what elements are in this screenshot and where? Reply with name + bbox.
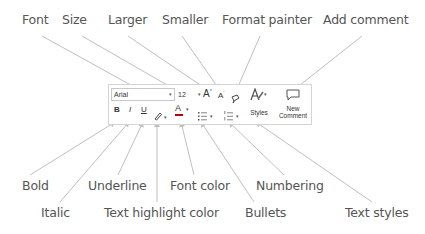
- label-numbering: Numbering: [256, 178, 324, 193]
- font-size-dropdown[interactable]: 12 ▾: [176, 88, 202, 101]
- styles-label: Styles: [247, 109, 271, 116]
- styles-icon: ▾: [250, 88, 268, 102]
- font-name-dropdown[interactable]: Arial ▾: [111, 88, 175, 101]
- chevron-down-icon: ▾: [198, 88, 201, 101]
- font-color-bar: [175, 114, 183, 116]
- italic-button[interactable]: I: [129, 106, 131, 114]
- label-font: Font: [22, 12, 48, 27]
- label-larger: Larger: [108, 12, 147, 27]
- format-painter-icon: [231, 94, 241, 104]
- highlight-color-button[interactable]: ▾: [153, 106, 169, 125]
- new-comment-label-line2: Comment: [275, 112, 311, 119]
- svg-text:▾: ▾: [164, 114, 167, 120]
- bold-icon: B: [114, 105, 120, 114]
- styles-button[interactable]: ▾ Styles: [247, 88, 271, 124]
- svg-text:▾: ▾: [236, 113, 239, 119]
- numbering-button[interactable]: ▾: [224, 106, 242, 125]
- comment-icon: [286, 89, 300, 101]
- numbering-icon: ▾: [224, 111, 242, 121]
- label-underline: Underline: [88, 178, 147, 193]
- mini-toolbar: Arial ▾ 12 ▾ A^ Aˇ ▾ Styles New Comment …: [108, 84, 312, 125]
- new-comment-button[interactable]: New Comment: [275, 88, 311, 124]
- font-color-icon: A: [175, 104, 181, 113]
- label-format-painter: Format painter: [222, 12, 312, 27]
- label-add-comment: Add comment: [323, 12, 408, 27]
- italic-icon: I: [129, 105, 131, 114]
- label-font-color: Font color: [170, 178, 230, 193]
- bullets-icon: ▾: [198, 111, 216, 121]
- label-italic: Italic: [41, 205, 70, 220]
- svg-text:▾: ▾: [264, 91, 267, 97]
- underline-icon: U: [141, 105, 147, 114]
- grow-font-button[interactable]: A^: [203, 89, 212, 99]
- underline-button[interactable]: U: [141, 106, 147, 114]
- new-comment-label-line1: New: [275, 105, 311, 112]
- shrink-font-button[interactable]: Aˇ: [218, 91, 225, 100]
- chevron-down-icon: ▾: [186, 106, 189, 112]
- highlighter-icon: ▾: [153, 111, 169, 121]
- label-bold: Bold: [22, 178, 49, 193]
- font-name-value: Arial: [114, 91, 128, 98]
- bold-button[interactable]: B: [114, 106, 120, 114]
- svg-text:▾: ▾: [210, 113, 213, 119]
- font-size-value: 12: [178, 91, 186, 98]
- label-text-styles: Text styles: [345, 205, 409, 220]
- bullets-button[interactable]: ▾: [198, 106, 216, 125]
- label-smaller: Smaller: [162, 12, 208, 27]
- grow-font-icon: A: [203, 88, 210, 99]
- chevron-down-icon: ▾: [169, 89, 172, 100]
- label-text-highlight-color: Text highlight color: [104, 205, 219, 220]
- label-bullets: Bullets: [245, 205, 286, 220]
- label-size: Size: [62, 12, 87, 27]
